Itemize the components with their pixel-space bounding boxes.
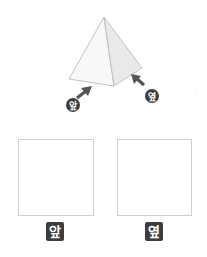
svg-text:앞: 앞: [69, 100, 78, 111]
svg-text:옆: 옆: [148, 91, 156, 102]
side-view-arrow-icon: [131, 74, 144, 85]
side-view-drawing-box[interactable]: [117, 139, 192, 216]
square-pyramid-illustration: 앞 옆: [0, 0, 207, 130]
pyramid-figure: 앞 옆: [0, 0, 207, 130]
side-view-label: 옆: [145, 222, 163, 241]
stray-dot: [194, 89, 195, 90]
front-view-drawing-box[interactable]: [18, 139, 94, 216]
side-view-badge: 옆: [145, 89, 159, 103]
front-view-badge: 앞: [66, 98, 80, 112]
front-view-label: 앞: [46, 222, 64, 241]
front-view-arrow-icon: [77, 86, 92, 98]
